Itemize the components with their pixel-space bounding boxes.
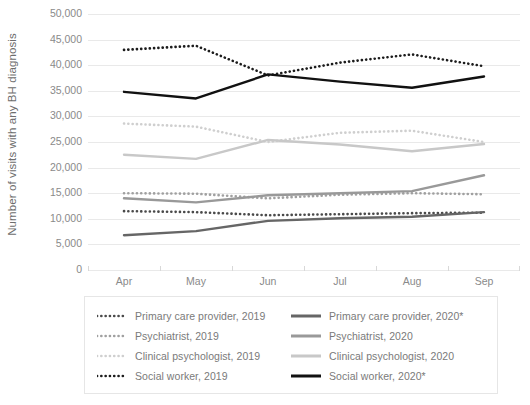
- legend-swatch-icon: [97, 311, 127, 321]
- series-line: [124, 175, 484, 202]
- legend-swatch-icon: [97, 371, 127, 381]
- legend-item-label: Clinical psychologist, 2019: [135, 350, 260, 362]
- legend-swatch-icon: [291, 331, 321, 341]
- legend-item-label: Social worker, 2019: [135, 370, 228, 382]
- x-tick-label-jun: Jun: [260, 275, 277, 287]
- y-axis-title: Number of visits with any BH diagnosis: [0, 0, 24, 272]
- x-axis: AprMayJunJulAugSep: [88, 270, 520, 292]
- y-tick-label: 45,000: [26, 33, 82, 45]
- y-tick-label: 35,000: [26, 84, 82, 96]
- x-tick-mark: [88, 266, 89, 271]
- legend-item-label: Primary care provider, 2020*: [329, 310, 463, 322]
- chart-container: Number of visits with any BH diagnosis 5…: [0, 0, 530, 405]
- legend-column-2020: Primary care provider, 2020*Psychiatrist…: [291, 306, 485, 385]
- x-tick-label-sep: Sep: [475, 275, 494, 287]
- legend-item-social-worker-2020[interactable]: Social worker, 2020*: [291, 366, 485, 385]
- legend-item-psychiatrist-2020[interactable]: Psychiatrist, 2020: [291, 326, 485, 345]
- legend-item-label: Primary care provider, 2019: [135, 310, 265, 322]
- series-line: [124, 46, 484, 76]
- legend-item-label: Social worker, 2020*: [329, 370, 426, 382]
- y-tick-label: 40,000: [26, 58, 82, 70]
- y-tick-label: 10,000: [26, 212, 82, 224]
- legend-item-clinical-psychologist-2019[interactable]: Clinical psychologist, 2019: [97, 346, 291, 365]
- x-tick-label-apr: Apr: [116, 275, 132, 287]
- legend-item-social-worker-2019[interactable]: Social worker, 2019: [97, 366, 291, 385]
- legend-item-label: Psychiatrist, 2020: [329, 330, 413, 342]
- series-line: [124, 74, 484, 98]
- y-tick-label: 30,000: [26, 109, 82, 121]
- x-tick-mark: [232, 266, 233, 271]
- y-tick-label: 0: [26, 263, 82, 275]
- series-line: [124, 124, 484, 142]
- x-tick-mark: [519, 266, 520, 271]
- x-tick-mark: [376, 266, 377, 271]
- legend-swatch-icon: [97, 331, 127, 341]
- y-tick-label: 25,000: [26, 135, 82, 147]
- legend-item-label: Psychiatrist, 2019: [135, 330, 219, 342]
- y-tick-label: 15,000: [26, 186, 82, 198]
- chart-legend: Primary care provider, 2019Psychiatrist,…: [84, 296, 498, 394]
- x-tick-mark: [160, 266, 161, 271]
- x-tick-mark: [448, 266, 449, 271]
- legend-swatch-icon: [291, 371, 321, 381]
- legend-item-clinical-psychologist-2020[interactable]: Clinical psychologist, 2020: [291, 346, 485, 365]
- y-tick-label: 50,000: [26, 7, 82, 19]
- legend-item-label: Clinical psychologist, 2020: [329, 350, 454, 362]
- legend-column-2019: Primary care provider, 2019Psychiatrist,…: [97, 306, 291, 385]
- legend-swatch-icon: [291, 351, 321, 361]
- series-lines-group: [88, 14, 520, 270]
- plot-area: 50,00045,00040,00035,00030,00025,00020,0…: [88, 14, 520, 270]
- legend-swatch-icon: [291, 311, 321, 321]
- x-tick-label-aug: Aug: [403, 275, 422, 287]
- x-tick-label-jul: Jul: [333, 275, 346, 287]
- legend-item-primary-care-provider-2020[interactable]: Primary care provider, 2020*: [291, 306, 485, 325]
- legend-item-psychiatrist-2019[interactable]: Psychiatrist, 2019: [97, 326, 291, 345]
- legend-swatch-icon: [97, 351, 127, 361]
- y-tick-label: 20,000: [26, 161, 82, 173]
- legend-item-primary-care-provider-2019[interactable]: Primary care provider, 2019: [97, 306, 291, 325]
- y-tick-label: 5,000: [26, 237, 82, 249]
- x-tick-label-may: May: [186, 275, 206, 287]
- series-line: [124, 140, 484, 159]
- x-tick-mark: [304, 266, 305, 271]
